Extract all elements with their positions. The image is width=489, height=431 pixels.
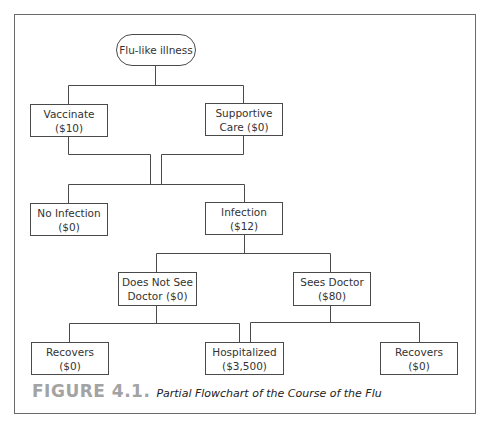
node-does-not-see-doctor: Does Not See Doctor ($0) [118,272,197,306]
figure-number: FIGURE 4.1. [32,381,150,401]
node-label: Recovers [46,345,94,359]
node-cost: ($0) [408,359,430,373]
node-recovers-left: Recovers ($0) [31,342,109,375]
node-cost: ($3,500) [222,359,267,373]
figure-caption: FIGURE 4.1.Partial Flowchart of the Cour… [32,381,382,401]
node-label: Supportive [215,106,272,120]
node-vaccinate: Vaccinate ($10) [30,104,108,137]
node-cost: Care ($0) [219,120,268,134]
node-cost: Doctor ($0) [127,289,187,303]
node-label: Vaccinate [44,107,95,121]
node-recovers-right: Recovers ($0) [380,342,458,375]
node-label: Does Not See [122,275,193,289]
node-flu-like-illness: Flu-like illness [116,34,196,66]
node-label: Hospitalized [212,345,276,359]
node-label: Flu-like illness [119,43,193,57]
node-cost: ($10) [55,121,83,135]
node-label: Sees Doctor [300,275,364,289]
node-hospitalized: Hospitalized ($3,500) [205,342,284,375]
node-label: No Infection [37,206,100,220]
node-cost: ($0) [59,359,81,373]
node-label: Infection [221,205,267,219]
node-cost: ($12) [230,219,258,233]
node-no-infection: No Infection ($0) [30,203,108,236]
node-sees-doctor: Sees Doctor ($80) [293,272,371,306]
node-cost: ($80) [318,289,346,303]
node-infection: Infection ($12) [205,202,283,235]
node-cost: ($0) [58,220,80,234]
node-label: Recovers [395,345,443,359]
node-supportive-care: Supportive Care ($0) [205,103,283,136]
figure-title: Partial Flowchart of the Course of the F… [156,387,381,400]
